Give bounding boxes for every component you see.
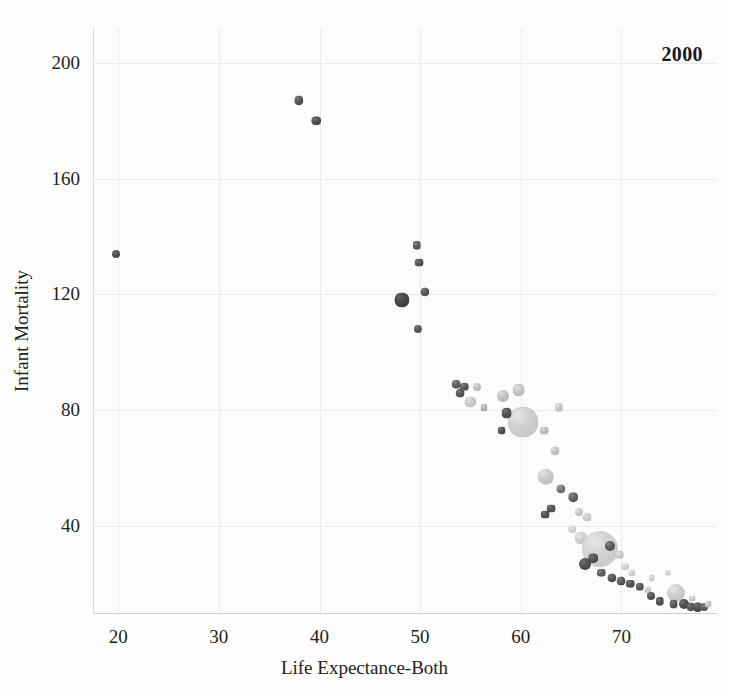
data-point-bubble xyxy=(568,492,578,502)
data-point-bubble xyxy=(626,580,634,588)
y-tick-label: 40 xyxy=(61,515,80,537)
grid-line-vertical xyxy=(521,28,522,613)
y-axis-title: Infant Mortality xyxy=(11,221,33,441)
data-point-bubble xyxy=(556,484,565,493)
data-point-bubble xyxy=(497,390,509,402)
year-annotation-label: 2000 xyxy=(661,43,703,66)
data-point-bubble xyxy=(465,396,476,407)
y-tick-label: 160 xyxy=(52,168,81,190)
data-point-bubble xyxy=(497,426,506,435)
data-point-bubble xyxy=(628,569,635,576)
data-point-bubble xyxy=(704,601,711,608)
data-point-bubble xyxy=(669,600,678,609)
grid-line-vertical xyxy=(320,28,321,613)
data-point-bubble xyxy=(568,525,576,533)
data-point-bubble xyxy=(635,583,643,591)
data-point-bubble xyxy=(512,384,525,397)
grid-line-horizontal xyxy=(93,179,717,180)
grid-line-vertical xyxy=(621,28,622,613)
y-tick-label: 120 xyxy=(52,283,81,305)
data-point-bubble xyxy=(112,250,120,258)
x-axis-title: Life Expectance-Both xyxy=(0,657,729,679)
data-point-bubble xyxy=(605,541,615,551)
x-tick-label: 60 xyxy=(511,626,530,648)
data-point-bubble xyxy=(583,513,592,522)
data-point-bubble xyxy=(460,383,468,391)
grid-line-vertical xyxy=(118,28,119,613)
data-point-bubble xyxy=(608,574,617,583)
data-point-bubble xyxy=(394,293,409,308)
x-tick-label: 70 xyxy=(612,626,631,648)
data-point-bubble xyxy=(415,258,424,267)
x-axis-line xyxy=(93,613,717,614)
y-axis-line xyxy=(93,28,94,613)
x-tick-label: 50 xyxy=(411,626,430,648)
data-point-bubble xyxy=(550,446,559,455)
grid-line-horizontal xyxy=(93,63,717,64)
y-tick-label: 80 xyxy=(61,399,80,421)
data-point-bubble xyxy=(617,577,626,586)
data-point-bubble xyxy=(540,510,549,519)
scatter-plot-figure: 4080120160200 203040506070 Life Expectan… xyxy=(0,0,729,690)
grid-line-horizontal xyxy=(93,526,717,527)
x-axis-ticks: 203040506070 xyxy=(0,626,729,652)
data-point-bubble xyxy=(501,408,512,419)
y-tick-label: 200 xyxy=(52,52,81,74)
plot-area xyxy=(93,28,717,613)
grid-line-vertical xyxy=(219,28,220,613)
data-point-bubble xyxy=(597,568,605,576)
data-point-bubble xyxy=(539,426,548,435)
x-tick-label: 40 xyxy=(310,626,329,648)
data-point-bubble xyxy=(648,575,655,582)
x-tick-label: 20 xyxy=(109,626,128,648)
data-point-bubble xyxy=(575,508,583,516)
x-tick-label: 30 xyxy=(209,626,228,648)
grid-line-vertical xyxy=(420,28,421,613)
data-point-bubble xyxy=(579,558,591,570)
data-point-bubble xyxy=(655,597,663,605)
data-point-bubble xyxy=(647,592,655,600)
data-point-bubble xyxy=(312,116,322,126)
grid-line-horizontal xyxy=(93,410,717,411)
data-point-bubble xyxy=(473,383,481,391)
data-point-bubble xyxy=(664,569,670,575)
data-point-bubble xyxy=(295,96,304,105)
data-point-bubble xyxy=(688,595,695,602)
data-point-bubble xyxy=(538,469,554,485)
